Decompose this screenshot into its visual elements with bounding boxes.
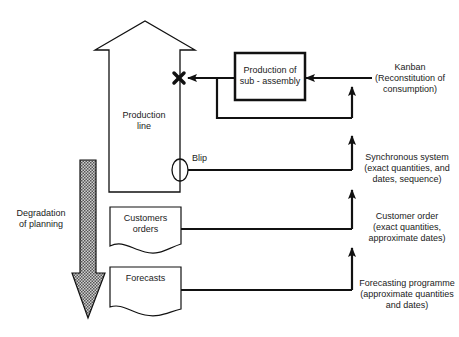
customer-order-label-line1: Customer order xyxy=(355,211,459,222)
customer-order-label-line3: approximate dates) xyxy=(355,233,459,244)
forecasts-label-line1: Forecasts xyxy=(110,273,181,284)
degradation-arrow xyxy=(72,160,105,318)
customers-orders-label: Customers orders xyxy=(110,213,181,235)
forecasting-label-line3: and dates) xyxy=(355,300,459,311)
production-line-label: Production line xyxy=(116,110,172,132)
degradation-label-line2: of planning xyxy=(8,219,74,230)
synchronous-label-line1: Synchronous system xyxy=(355,152,459,163)
forecasts-label: Forecasts xyxy=(110,273,181,284)
customers-orders-label-line1: Customers xyxy=(110,213,181,224)
kanban-label-line2: (Reconstitution of xyxy=(360,73,459,84)
forecasting-label-line2: (approximate quantities xyxy=(355,289,459,300)
synchronous-label-line2: (exact quantities, and xyxy=(355,163,459,174)
production-line-label-line2: line xyxy=(116,121,172,132)
production-line-label-line1: Production xyxy=(116,110,172,121)
degradation-label: Degradation of planning xyxy=(8,208,74,230)
blip-label: Blip xyxy=(192,153,207,164)
production-line-arrow xyxy=(95,21,195,192)
customer-order-label-line2: (exact quantities, xyxy=(355,222,459,233)
synchronous-label-line3: dates, sequence) xyxy=(355,174,459,185)
blip-label-text: Blip xyxy=(192,153,207,164)
kanban-label: Kanban (Reconstitution of consumption) xyxy=(360,62,459,95)
kanban-label-line1: Kanban xyxy=(360,62,459,73)
synchronous-label: Synchronous system (exact quantities, an… xyxy=(355,152,459,185)
sub-assembly-label: Production of sub - assembly xyxy=(236,65,304,87)
customer-order-label: Customer order (exact quantities, approx… xyxy=(355,211,459,244)
kanban-label-line3: consumption) xyxy=(360,84,459,95)
forecasting-label-line1: Forecasting programme xyxy=(355,278,459,289)
sub-assembly-label-line2: sub - assembly xyxy=(236,76,304,87)
sub-assembly-label-line1: Production of xyxy=(236,65,304,76)
customers-orders-label-line2: orders xyxy=(110,224,181,235)
forecasting-label: Forecasting programme (approximate quant… xyxy=(355,278,459,311)
degradation-label-line1: Degradation xyxy=(8,208,74,219)
